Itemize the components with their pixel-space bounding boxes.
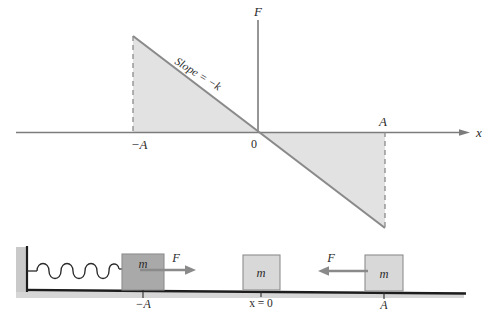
spring xyxy=(27,264,127,279)
force-label-left: F xyxy=(171,251,180,265)
block-center-mass-label: m xyxy=(256,266,265,280)
force-arrow-left-head xyxy=(185,265,196,275)
position-label-center: x = 0 xyxy=(249,297,273,309)
force-arrow-right xyxy=(318,266,368,276)
force-displacement-graph: F x 0 −A A Slope = −k xyxy=(16,4,482,228)
block-group-right: m F A xyxy=(318,251,403,312)
block-group-left: m F −A xyxy=(122,251,196,311)
physics-figure-spring-force-graph: F x 0 −A A Slope = −k m xyxy=(0,0,490,312)
block-group-center: m x = 0 xyxy=(243,255,280,309)
graph-tick-label-a: A xyxy=(378,114,387,129)
f-axis-label: F xyxy=(253,4,263,19)
block-right-mass-label: m xyxy=(379,267,388,281)
x-axis-arrowhead xyxy=(459,129,470,135)
x-axis-label: x xyxy=(475,125,482,140)
spring-coils xyxy=(37,264,119,279)
force-arrow-right-head xyxy=(318,266,329,276)
position-label-right: A xyxy=(379,298,388,312)
graph-tick-label-minus-a: −A xyxy=(131,137,148,152)
force-label-right: F xyxy=(326,251,335,265)
position-label-left: −A xyxy=(135,297,151,311)
wall-shadow xyxy=(16,247,27,295)
graph-origin-label: 0 xyxy=(251,137,257,151)
spring-mass-apparatus: m F −A m x = 0 m xyxy=(16,246,466,312)
